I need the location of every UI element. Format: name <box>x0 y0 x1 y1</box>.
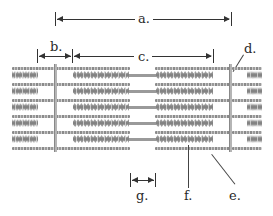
thin-filament <box>232 83 262 86</box>
label-e: e. <box>229 189 241 202</box>
dim-c-arrow-left-icon <box>74 53 80 59</box>
dim-c-arrow-right-icon <box>206 53 212 59</box>
thick-filament <box>247 87 262 95</box>
label-c: c. <box>138 50 149 63</box>
dim-a-line-left <box>57 19 135 20</box>
thick-filament <box>247 103 262 111</box>
thick-filament <box>12 103 38 111</box>
bare-zone <box>129 106 156 109</box>
label-e-leader <box>211 154 235 185</box>
thin-filament <box>56 99 130 102</box>
dim-a-arrow-right-icon <box>224 16 230 22</box>
thin-filament <box>12 115 55 118</box>
thick-filament <box>156 135 213 143</box>
thick-filament <box>156 119 213 127</box>
thick-filament <box>12 87 38 95</box>
dim-g-arrow-left-icon <box>132 177 138 183</box>
thin-filament <box>155 147 230 150</box>
dim-g-right-tick <box>155 173 156 187</box>
thin-filament <box>12 83 55 86</box>
dim-c-line-left <box>74 56 134 57</box>
label-a: a. <box>138 12 150 25</box>
thick-filament <box>73 119 129 127</box>
thin-filament <box>56 131 130 134</box>
thick-filament <box>156 103 213 111</box>
thick-filament <box>156 87 213 95</box>
dim-g-left-tick <box>130 173 131 187</box>
thin-filament <box>155 83 230 86</box>
thin-filament <box>12 131 55 134</box>
dim-b-left-tick <box>37 49 38 63</box>
thin-filament <box>232 99 262 102</box>
bare-zone <box>129 122 156 125</box>
thin-filament <box>56 83 130 86</box>
thick-filament <box>73 71 129 79</box>
dim-b-arrow-left-icon <box>39 53 45 59</box>
thick-filament <box>73 135 129 143</box>
thin-filament <box>232 115 262 118</box>
thin-filament <box>12 147 55 150</box>
thin-filament <box>155 115 230 118</box>
thin-filament <box>155 99 230 102</box>
thick-filament <box>156 71 213 79</box>
thin-filament <box>155 67 230 70</box>
thick-filament <box>12 119 38 127</box>
thick-filament <box>12 135 38 143</box>
thin-filament <box>56 67 130 70</box>
thick-filament <box>73 87 129 95</box>
bare-zone <box>129 74 156 77</box>
thin-filament <box>232 147 262 150</box>
thin-filament <box>12 67 55 70</box>
z-line-left <box>54 64 57 152</box>
bare-zone <box>129 138 156 141</box>
z-line-right <box>229 64 232 152</box>
dim-c-right-tick <box>213 49 214 63</box>
label-f: f. <box>184 189 192 202</box>
dim-a-arrow-left-icon <box>57 16 63 22</box>
thin-filament <box>12 99 55 102</box>
thick-filament <box>247 71 262 79</box>
label-d: d. <box>244 42 256 55</box>
thin-filament <box>232 131 262 134</box>
thick-filament <box>73 103 129 111</box>
bare-zone <box>129 90 156 93</box>
thick-filament <box>12 71 38 79</box>
label-f-leader <box>188 145 189 188</box>
thick-filament <box>247 119 262 127</box>
dim-b-right-tick <box>72 49 73 63</box>
dim-a-left-tick <box>55 12 56 26</box>
thin-filament <box>56 147 130 150</box>
label-g: g. <box>136 189 148 202</box>
dim-a-right-tick <box>231 12 232 26</box>
dim-a-line-right <box>153 19 229 20</box>
dim-g-arrow-right-icon <box>148 177 154 183</box>
thin-filament <box>232 67 262 70</box>
label-b: b. <box>50 40 62 53</box>
thin-filament <box>155 131 230 134</box>
thin-filament <box>56 115 130 118</box>
dim-c-line-right <box>152 56 211 57</box>
thick-filament <box>247 135 262 143</box>
dim-b-arrow-right-icon <box>65 53 71 59</box>
